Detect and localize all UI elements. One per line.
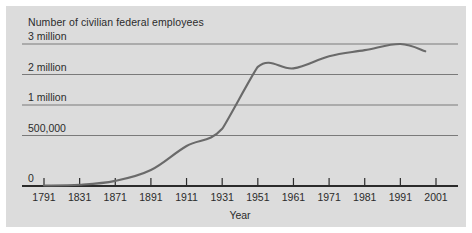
x-tick-label: 1981 — [353, 191, 376, 203]
y-tick-label: 3 million — [28, 30, 67, 42]
x-tick-label: 1951 — [246, 191, 269, 203]
y-tick-label: 0 — [28, 172, 34, 184]
gridlines — [22, 44, 458, 136]
x-tick-label: 1931 — [210, 191, 233, 203]
x-tick-label: 1871 — [104, 191, 127, 203]
x-tick-label: 1831 — [68, 191, 91, 203]
x-tick-label: 1971 — [317, 191, 340, 203]
x-tick-label: 1891 — [139, 191, 162, 203]
x-tick-label: 1911 — [175, 191, 198, 203]
x-tick-label: 1961 — [282, 191, 305, 203]
series-line-civilian-federal-employees — [44, 44, 425, 186]
x-axis-title: Year — [229, 209, 250, 221]
y-tick-label: 2 million — [28, 61, 67, 73]
x-tick-label: 1791 — [32, 191, 55, 203]
x-tick-label: 2001 — [424, 191, 447, 203]
y-tick-label: 1 million — [28, 91, 67, 103]
chart-panel: Number of civilian federal employees 050… — [6, 6, 466, 227]
x-tick-label: 1991 — [389, 191, 412, 203]
y-tick-label: 500,000 — [28, 122, 66, 134]
chart-figure: Number of civilian federal employees 050… — [0, 0, 472, 233]
